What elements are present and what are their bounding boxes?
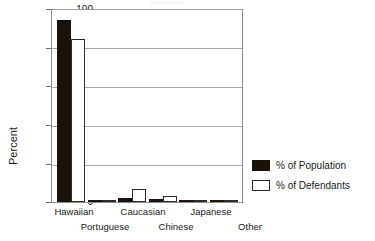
bar-defendants-hawaiian [71, 39, 85, 202]
scan-artifact [150, 1, 184, 4]
legend-label-population: % of Population [276, 160, 346, 171]
legend-item-defendants: % of Defendants [252, 180, 375, 191]
bar-group-portuguese [88, 10, 119, 202]
x-label-hawaiian: Hawaiian [54, 206, 93, 217]
bar-population-hawaiian [57, 20, 71, 202]
plot-area [51, 9, 243, 203]
bar-group-other [210, 10, 241, 202]
bar-population-portuguese [88, 200, 102, 202]
bar-defendants-caucasian [132, 189, 146, 202]
legend-item-population: % of Population [252, 160, 375, 171]
bar-population-other [210, 200, 224, 202]
x-label-caucasian: Caucasian [121, 206, 166, 217]
x-label-japanese: Japanese [190, 206, 231, 217]
bar-population-chinese [149, 199, 163, 202]
x-axis-labels: Hawaiian Portuguese Caucasian Chinese Ja… [51, 203, 243, 241]
bar-defendants-japanese [193, 200, 207, 202]
x-label-portuguese: Portuguese [81, 221, 130, 232]
legend-swatch-defendants-icon [252, 180, 270, 191]
legend-label-defendants: % of Defendants [276, 180, 350, 191]
bar-chart: 100 80 60 40 20 0 Percent [0, 0, 375, 241]
bar-defendants-chinese [163, 196, 177, 202]
bar-population-japanese [179, 200, 193, 202]
bar-group-chinese [149, 10, 180, 202]
legend-swatch-population-icon [252, 160, 270, 171]
bars-layer [52, 10, 242, 202]
bar-group-hawaiian [57, 10, 88, 202]
bar-group-caucasian [118, 10, 149, 202]
bar-population-caucasian [118, 198, 132, 202]
x-label-chinese: Chinese [159, 221, 194, 232]
y-axis-title: Percent [7, 110, 19, 182]
bar-group-japanese [179, 10, 210, 202]
bar-defendants-other [224, 200, 238, 202]
bar-defendants-portuguese [102, 200, 116, 202]
x-label-other: Other [238, 221, 262, 232]
chart-legend: % of Population % of Defendants [252, 160, 375, 200]
